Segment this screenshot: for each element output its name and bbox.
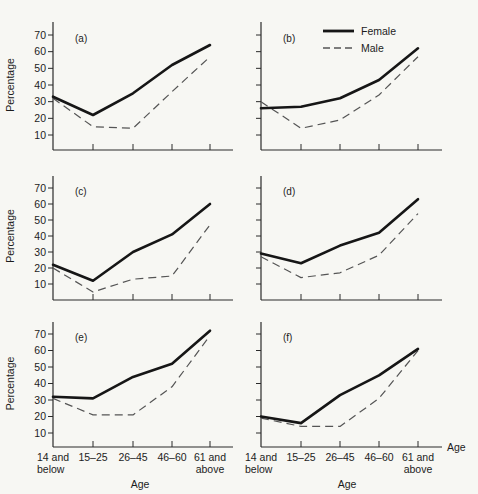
y-tick-label-a: 70: [34, 29, 46, 41]
y-axis-title-c: Percentage: [4, 209, 16, 263]
x-cat-label: below: [37, 463, 65, 475]
x-cat-label: 15–25: [286, 451, 315, 463]
panel-c: 10203040506070(c)Percentage: [4, 176, 233, 300]
x-cat-label: above: [404, 463, 433, 475]
female-line-f: [261, 349, 418, 423]
panel-label-b: (b): [283, 33, 295, 44]
y-tick-label-e: 50: [34, 361, 46, 373]
panel-d: (d): [256, 176, 442, 300]
panel-e: 10203040506070(e)Percentage14 andbelow15…: [4, 322, 233, 490]
panel-f: (f)14 andbelow15–2526–4546–6061 andabove…: [245, 322, 466, 490]
panel-a: 10203040506070(a)Percentage: [4, 22, 233, 150]
female-line-b: [261, 48, 418, 108]
y-tick-label-a: 40: [34, 79, 46, 91]
six-panel-line-chart-figure: 10203040506070(a)Percentage(b)FemaleMale…: [0, 0, 478, 494]
x-cat-label: 26–45: [118, 451, 147, 463]
y-tick-label-e: 20: [34, 410, 46, 422]
y-tick-label-e: 60: [34, 344, 46, 356]
x-cat-label: 14 and: [37, 451, 69, 463]
x-cat-label: below: [245, 463, 273, 475]
y-tick-label-e: 10: [34, 427, 46, 439]
y-tick-label-a: 20: [34, 112, 46, 124]
y-tick-label-c: 40: [34, 230, 46, 242]
male-line-e: [53, 336, 210, 415]
x-axis-end-label: Age: [447, 441, 466, 453]
y-tick-label-e: 70: [34, 328, 46, 340]
x-axis-title-f: Age: [338, 478, 357, 490]
y-tick-label-e: 40: [34, 377, 46, 389]
male-line-f: [261, 351, 418, 427]
female-line-c: [53, 204, 210, 281]
x-cat-label: 61 and: [194, 451, 226, 463]
x-cat-label: 15–25: [78, 451, 107, 463]
panel-label-d: (d): [283, 186, 295, 197]
y-tick-label-c: 10: [34, 278, 46, 290]
legend-label-female: Female: [361, 25, 396, 37]
y-tick-label-a: 60: [34, 45, 46, 57]
y-tick-label-c: 20: [34, 262, 46, 274]
legend: FemaleMale: [323, 25, 396, 54]
y-tick-label-c: 30: [34, 246, 46, 258]
x-cat-label: 26–45: [325, 451, 354, 463]
x-cat-label: 46–60: [157, 451, 186, 463]
x-cat-label: 46–60: [364, 451, 393, 463]
panel-b: (b)FemaleMale: [256, 22, 442, 150]
y-tick-label-a: 10: [34, 129, 46, 141]
y-axis-title-a: Percentage: [4, 58, 16, 112]
y-tick-label-c: 70: [34, 182, 46, 194]
male-line-c: [53, 225, 210, 292]
y-tick-label-a: 30: [34, 95, 46, 107]
panel-label-f: (f): [283, 332, 292, 343]
panel-label-c: (c): [75, 186, 87, 197]
panel-label-a: (a): [75, 33, 87, 44]
female-line-a: [53, 45, 210, 115]
legend-label-male: Male: [361, 42, 384, 54]
y-tick-label-a: 50: [34, 62, 46, 74]
x-axis-title-e: Age: [131, 478, 150, 490]
male-line-a: [53, 57, 210, 129]
line-chart-canvas: 10203040506070(a)Percentage(b)FemaleMale…: [0, 0, 478, 494]
panel-label-e: (e): [75, 332, 87, 343]
x-cat-label: 61 and: [402, 451, 434, 463]
x-cat-label: above: [196, 463, 225, 475]
y-tick-label-c: 60: [34, 198, 46, 210]
x-cat-label: 14 and: [245, 451, 277, 463]
y-axis-title-e: Percentage: [4, 356, 16, 410]
y-tick-label-e: 30: [34, 394, 46, 406]
y-tick-label-c: 50: [34, 214, 46, 226]
female-line-d: [261, 199, 418, 263]
